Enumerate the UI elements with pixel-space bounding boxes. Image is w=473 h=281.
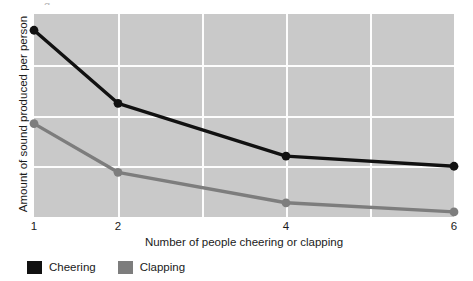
data-point	[282, 198, 291, 207]
plot-area	[34, 14, 454, 217]
legend-swatch-icon	[27, 261, 42, 274]
x-axis-tick-label: 2	[105, 219, 131, 233]
legend-label: Clapping	[140, 261, 185, 274]
legend-item: Clapping	[118, 261, 185, 274]
data-point	[30, 119, 39, 128]
legend-label: Cheering	[49, 261, 96, 274]
clipped-text-artifact: g	[44, 0, 58, 5]
data-point	[30, 26, 39, 35]
y-axis-title: Amount of sound produced per person	[17, 14, 29, 214]
data-point	[282, 152, 291, 161]
data-series-layer	[34, 14, 454, 217]
series-line-cheering	[34, 30, 454, 166]
x-axis-tick-label: 1	[21, 219, 47, 233]
x-axis-tick-label: 4	[273, 219, 299, 233]
series-line-clapping	[34, 124, 454, 212]
data-point	[450, 208, 459, 217]
data-point	[450, 162, 459, 171]
data-point	[114, 168, 123, 177]
legend-swatch-icon	[118, 261, 133, 274]
x-axis-tick-label: 6	[441, 219, 467, 233]
legend: CheeringClapping	[27, 261, 185, 274]
data-point	[114, 99, 123, 108]
x-axis-title: Number of people cheering or clapping	[34, 236, 454, 248]
chart-figure: g 1246 Number of people cheering or clap…	[0, 0, 473, 281]
legend-item: Cheering	[27, 261, 96, 274]
